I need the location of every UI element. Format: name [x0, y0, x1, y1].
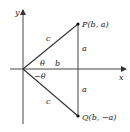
vertical-upper-label: a — [82, 44, 87, 53]
angle-theta-label: θ — [40, 59, 45, 68]
hypotenuse-lower-label: c — [46, 97, 51, 106]
segment-op — [23, 24, 78, 69]
x-axis-label: x — [119, 73, 124, 82]
base-label: b — [55, 59, 60, 68]
point-p-label: P(b, a) — [81, 20, 109, 29]
diagram-canvas: y x P(b, a) Q(b, −a) c c a a b θ −θ — [0, 0, 130, 132]
point-q-label: Q(b, −a) — [82, 113, 116, 122]
point-q — [76, 114, 79, 117]
y-axis-label: y — [14, 8, 20, 17]
angle-neg-theta-label: −θ — [34, 72, 46, 81]
point-p — [76, 22, 79, 25]
vertical-lower-label: a — [82, 85, 87, 94]
hypotenuse-upper-label: c — [46, 34, 51, 43]
segment-oq — [23, 69, 78, 116]
